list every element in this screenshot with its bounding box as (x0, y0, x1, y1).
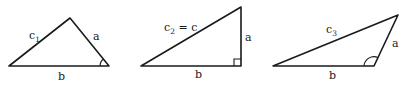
label-b3: b (329, 69, 336, 82)
label-b1: b (58, 70, 65, 83)
acute-angle-arc-icon (100, 59, 104, 66)
triangle-right-outline (141, 7, 241, 66)
label-c2-equals-c: c2 = c (164, 21, 197, 36)
label-a3: a (392, 37, 399, 50)
label-c3: c3 (326, 23, 337, 38)
triangle-figure: c1 a b c2 = c a b c3 a b (0, 0, 402, 93)
triangle-right: c2 = c a b (141, 7, 252, 81)
label-a1: a (93, 30, 100, 43)
label-c1: c1 (29, 29, 40, 44)
triangle-acute: c1 a b (9, 18, 109, 83)
triangle-obtuse: c3 a b (273, 15, 399, 82)
right-angle-box-icon (234, 59, 241, 66)
triangle-obtuse-outline (273, 15, 398, 66)
label-a2: a (245, 31, 252, 44)
label-b2: b (195, 68, 202, 81)
